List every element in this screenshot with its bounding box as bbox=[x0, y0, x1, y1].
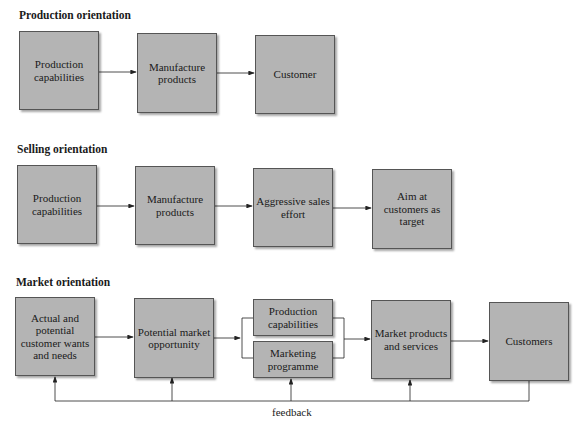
box-customers: Customers bbox=[489, 302, 569, 381]
box-aggressive-sales-effort: Aggressive sales effort bbox=[253, 168, 333, 247]
box-production-capabilities: Production capabilities bbox=[19, 31, 99, 110]
box-production-capabilities: Production capabilities bbox=[17, 165, 97, 244]
box-aim-at-customers: Aim at customers as target bbox=[372, 169, 452, 249]
box-customer-wants-needs: Actual and potential customer wants and … bbox=[15, 297, 95, 376]
box-manufacture-products: Manufacture products bbox=[135, 166, 215, 245]
box-market-products-services: Market products and services bbox=[371, 300, 451, 379]
section-title-production: Production orientation bbox=[19, 9, 131, 21]
box-production-capabilities: Production capabilities bbox=[253, 299, 333, 336]
box-potential-market-opportunity: Potential market opportunity bbox=[134, 298, 214, 378]
box-customer: Customer bbox=[255, 35, 335, 114]
feedback-label: feedback bbox=[272, 406, 312, 418]
section-title-selling: Selling orientation bbox=[17, 143, 107, 155]
box-manufacture-products: Manufacture products bbox=[137, 33, 217, 113]
box-marketing-programme: Marketing programme bbox=[253, 341, 333, 378]
section-title-market: Market orientation bbox=[16, 276, 110, 288]
